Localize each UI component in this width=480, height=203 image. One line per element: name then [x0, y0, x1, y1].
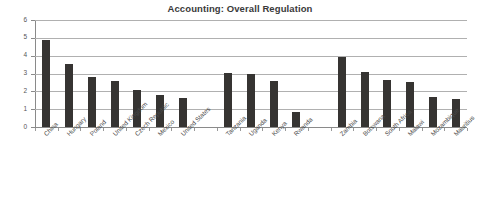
- plot-area: [35, 20, 467, 127]
- x-axis-tick: [285, 128, 286, 131]
- x-axis-tick: [262, 128, 263, 131]
- x-axis-tick: [308, 128, 309, 131]
- x-axis-tick: [422, 128, 423, 131]
- x-axis-tick: [103, 128, 104, 131]
- bar: [361, 72, 369, 127]
- gridline: [35, 56, 467, 57]
- bar-chart: Accounting: Overall Regulation 0123456 C…: [0, 0, 480, 203]
- bar: [179, 98, 187, 127]
- y-axis-tick-label: 0: [5, 124, 27, 131]
- bar: [88, 77, 96, 127]
- y-axis-tick-label: 2: [5, 88, 27, 95]
- bar: [383, 80, 391, 127]
- chart-title: Accounting: Overall Regulation: [0, 3, 480, 14]
- x-axis-tick: [399, 128, 400, 131]
- x-axis-tick: [149, 128, 150, 131]
- gridline: [35, 38, 467, 39]
- y-axis-tick-label: 5: [5, 34, 27, 41]
- x-axis-tick: [444, 128, 445, 131]
- bar: [247, 74, 255, 127]
- bar: [111, 81, 119, 127]
- y-axis-tick-label: 6: [5, 17, 27, 24]
- x-axis-tick: [126, 128, 127, 131]
- x-axis-tick: [353, 128, 354, 131]
- x-axis-tick: [171, 128, 172, 131]
- x-axis-tick: [35, 128, 36, 131]
- y-axis-tick-label: 1: [5, 106, 27, 113]
- y-axis-tick-label: 4: [5, 52, 27, 59]
- bar: [65, 64, 73, 127]
- gridline: [35, 20, 467, 21]
- x-axis-tick: [194, 128, 195, 131]
- bar: [429, 97, 437, 127]
- x-axis-tick: [240, 128, 241, 131]
- bar: [42, 40, 50, 127]
- y-axis-tick-label: 3: [5, 70, 27, 77]
- x-axis-tick: [331, 128, 332, 131]
- x-axis-tick: [58, 128, 59, 131]
- x-axis-tick: [80, 128, 81, 131]
- bar: [406, 82, 414, 127]
- x-axis-tick: [467, 128, 468, 131]
- bar: [338, 57, 346, 127]
- bar: [224, 73, 232, 127]
- x-axis-tick: [376, 128, 377, 131]
- bar: [270, 81, 278, 127]
- x-axis-tick: [217, 128, 218, 131]
